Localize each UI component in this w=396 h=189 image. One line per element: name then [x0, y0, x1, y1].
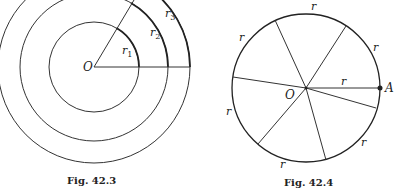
arc-label-6: r: [373, 41, 379, 54]
arc-label-4: r: [280, 158, 286, 171]
arc-r1: [117, 28, 140, 67]
label-r2: r2: [150, 26, 160, 41]
radius-6: [306, 88, 376, 108]
diagram-canvas: O r1 r2 r3 Fig. 42.3 O A r r r r r r r F…: [0, 0, 396, 189]
radius-4: [258, 88, 306, 144]
label-r3: r3: [165, 7, 175, 22]
label-r1: r1: [122, 44, 132, 59]
figure-42-4: O A r r r r r r r Fig. 42.4: [226, 0, 394, 188]
arc-label-3: r: [226, 105, 232, 118]
radius-3: [233, 77, 306, 88]
point-A: [378, 86, 383, 91]
radius-1: [306, 26, 346, 88]
radius-label-OA: r: [341, 75, 347, 88]
center-label-O: O: [285, 88, 295, 102]
middle-circle: [20, 0, 168, 141]
caption-fig-42-3: Fig. 42.3: [67, 175, 116, 186]
outer-circle: [0, 0, 190, 163]
arc-label-1: r: [311, 0, 317, 13]
center-label-O: O: [83, 60, 93, 74]
radius-5: [306, 88, 326, 160]
figure-42-3: O r1 r2 r3 Fig. 42.3: [0, 0, 190, 186]
center-point-O: [305, 87, 308, 90]
arc-label-2: r: [239, 31, 245, 44]
arc-label-5: r: [361, 136, 367, 149]
radius-2: [275, 20, 306, 88]
caption-fig-42-4: Fig. 42.4: [284, 177, 333, 188]
point-label-A: A: [384, 81, 394, 95]
